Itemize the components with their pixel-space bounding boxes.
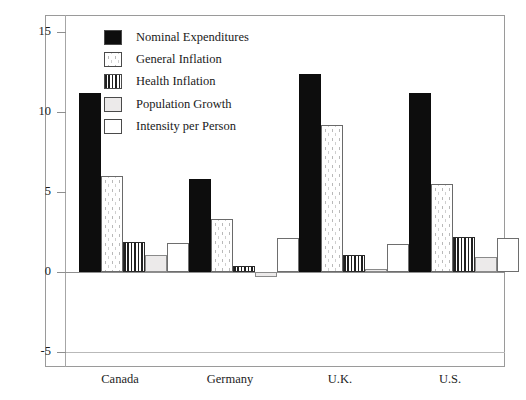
legend-label: Nominal Expenditures [136,31,249,44]
bar-canada-health-inflation [123,242,145,272]
legend-item: Nominal Expenditures [104,26,249,48]
bar-us-population-growth [475,257,497,272]
bar-canada-intensity-per-person [167,243,189,272]
bar-uk-health-inflation [343,255,365,272]
bar-chart: 151050-5 CanadaGermanyU.K.U.S. Nominal E… [0,0,526,400]
x-tick-label: Canada [65,372,175,386]
legend-item: Intensity per Person [104,116,249,138]
legend-item: Population Growth [104,93,249,115]
legend-swatch-icon [104,52,122,67]
bar-canada-nominal-expenditures [79,93,101,272]
legend-label: Health Inflation [136,75,216,88]
bar-us-intensity-per-person [497,238,519,272]
legend-label: General Inflation [136,53,222,66]
bar-canada-population-growth [145,255,167,272]
bar-germany-general-inflation [211,219,233,272]
bar-germany-population-growth [255,272,277,277]
x-tick-label: U.K. [285,372,395,386]
bar-germany-intensity-per-person [277,238,299,272]
bar-us-health-inflation [453,237,475,272]
legend: Nominal ExpendituresGeneral InflationHea… [104,26,249,138]
bars-layer [0,0,526,400]
bar-us-nominal-expenditures [409,93,431,272]
bar-uk-intensity-per-person [387,244,409,272]
legend-label: Intensity per Person [136,120,236,133]
legend-item: General Inflation [104,48,249,70]
bar-germany-nominal-expenditures [189,179,211,272]
legend-label: Population Growth [136,98,231,111]
bar-uk-general-inflation [321,125,343,272]
legend-item: Health Inflation [104,71,249,93]
bar-uk-population-growth [365,269,387,272]
bar-canada-general-inflation [101,176,123,272]
bar-uk-nominal-expenditures [299,74,321,272]
x-tick-label: U.S. [395,372,505,386]
legend-swatch-icon [104,119,122,134]
bar-germany-health-inflation [233,266,255,272]
bar-us-general-inflation [431,184,453,272]
legend-swatch-icon [104,30,122,45]
legend-swatch-icon [104,74,122,89]
legend-swatch-icon [104,97,122,112]
x-tick-label: Germany [175,372,285,386]
